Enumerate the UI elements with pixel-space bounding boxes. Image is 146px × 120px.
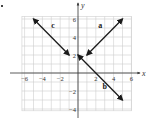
grid-border [22, 16, 131, 111]
x-tick-label: −6 [21, 75, 29, 82]
y-tick-label: −2 [69, 88, 76, 95]
x-tick-label: 4 [112, 75, 116, 82]
line-label-c: c [51, 21, 55, 30]
grid-lines [22, 16, 131, 111]
x-tick-label: 2 [94, 75, 97, 82]
x-tick-label: −4 [39, 75, 47, 82]
axes: xy [10, 1, 146, 118]
coordinate-plane: xy −6−4−2246−4−2246 abc [0, 0, 146, 120]
y-tick-label: 2 [73, 52, 76, 59]
y-tick-label: −4 [69, 106, 77, 113]
y-axis-label: y [80, 1, 85, 10]
line-label-a: a [98, 21, 102, 30]
x-tick-label: −2 [57, 75, 64, 82]
line-label-b: b [102, 82, 107, 91]
x-axis-label: x [141, 69, 146, 78]
x-tick-label: 6 [130, 75, 134, 82]
line-b [78, 55, 123, 100]
